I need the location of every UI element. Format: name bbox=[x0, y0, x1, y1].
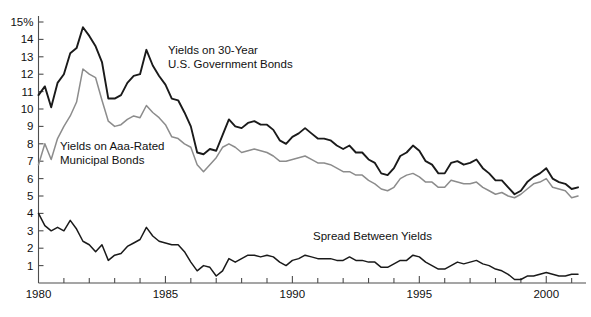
x-tick-label: 1985 bbox=[153, 288, 179, 300]
annotation-line: U.S. Government Bonds bbox=[168, 58, 293, 70]
y-tick-label: 9 bbox=[27, 120, 33, 132]
y-tick-label: 5 bbox=[27, 190, 33, 202]
y-tick-label: 13 bbox=[21, 51, 34, 63]
y-tick-label: 11 bbox=[22, 86, 34, 98]
y-tick-label: 15% bbox=[10, 16, 33, 28]
annotation-line: Municipal Bonds bbox=[60, 154, 145, 166]
y-tick-label: 3 bbox=[27, 225, 33, 237]
y-tick-label: 7 bbox=[27, 155, 33, 167]
y-tick-label: 10 bbox=[21, 103, 34, 115]
x-tick-label: 1990 bbox=[280, 288, 306, 300]
y-tick-label: 8 bbox=[27, 138, 33, 150]
y-tick-label: 14 bbox=[21, 33, 34, 45]
x-tick-label: 1995 bbox=[407, 288, 433, 300]
y-tick-label: 6 bbox=[27, 173, 33, 185]
x-tick-label: 1980 bbox=[26, 288, 52, 300]
y-tick-label: 12 bbox=[21, 68, 34, 80]
chart-container: 123456789101112131415% 19801985199019952… bbox=[0, 0, 591, 317]
x-tick-label: 2000 bbox=[533, 288, 559, 300]
annotation-line: Yields on Aaa-Rated bbox=[60, 140, 164, 152]
y-tick-label: 4 bbox=[27, 207, 34, 219]
annotation-spread-label: Spread Between Yields bbox=[313, 230, 432, 242]
y-tick-label: 2 bbox=[27, 242, 33, 254]
y-tick-label: 1 bbox=[27, 260, 33, 272]
annotation-line: Spread Between Yields bbox=[313, 230, 432, 242]
annotation-line: Yields on 30-Year bbox=[168, 44, 258, 56]
bond-yields-line-chart: 123456789101112131415% 19801985199019952… bbox=[0, 0, 591, 317]
